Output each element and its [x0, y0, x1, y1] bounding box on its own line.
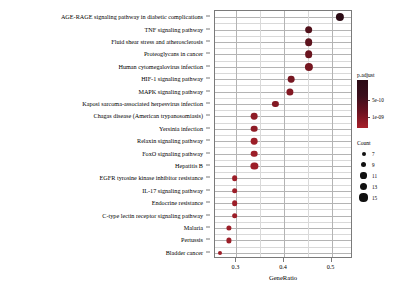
padjust-legend-tick-label: 5e-10	[372, 97, 384, 103]
y-axis-tick	[206, 127, 210, 128]
data-point-dot	[232, 200, 238, 206]
x-axis-tick	[283, 258, 284, 262]
gridline-vertical	[236, 11, 237, 257]
data-point-dot	[288, 76, 295, 83]
data-point-dot	[336, 13, 344, 21]
y-axis-tick	[206, 202, 210, 203]
data-point-dot	[272, 101, 278, 107]
y-axis-label: C-type lectin receptor signaling pathway	[102, 211, 203, 218]
padjust-gradient-bar: 5e-101e-09	[357, 80, 368, 128]
y-axis-label: Pertussis	[181, 236, 203, 243]
y-axis-label: MAPK signaling pathway	[138, 87, 203, 94]
legend-count-dot	[360, 183, 367, 190]
y-axis-label: Yersinia infection	[159, 124, 203, 131]
y-axis-tick	[206, 239, 210, 240]
x-axis-title: GeneRatio	[214, 274, 352, 281]
legend-count-label: 7	[372, 151, 375, 157]
legend-count-item: 13	[357, 181, 377, 192]
y-axis-tick	[206, 65, 210, 66]
y-axis-label: FoxO signaling pathway	[142, 149, 203, 156]
legend-count-label: 13	[372, 184, 377, 190]
data-point-dot	[305, 26, 313, 34]
legend-count-dot-wrap	[357, 193, 370, 201]
y-axis-tick	[206, 28, 210, 29]
legend-count-label: 15	[372, 195, 377, 201]
x-axis-tick-label: 0.5	[327, 263, 335, 270]
legend-count-item: 9	[357, 159, 377, 170]
y-axis-label: Malaria	[184, 224, 203, 231]
legend-count-label: 9	[372, 162, 375, 168]
y-axis-tick	[206, 115, 210, 116]
gridline-vertical	[332, 11, 333, 257]
data-point-dot	[286, 88, 293, 95]
legend-count-dot	[362, 152, 366, 156]
y-axis-label: Fluid shear stress and atherosclerosis	[111, 38, 203, 45]
data-point-dot	[251, 113, 258, 120]
plot-panel	[214, 10, 352, 258]
y-axis-label: Chagas disease (American trypanosomiasis…	[94, 112, 203, 119]
y-axis-label: HIF-1 signaling pathway	[141, 75, 203, 82]
legend-count-item: 15	[357, 192, 377, 203]
data-point-dot	[251, 125, 258, 132]
legend-count-dot-wrap	[357, 162, 370, 167]
y-axis-label: Kaposi sarcoma-associated herpesvirus in…	[82, 100, 203, 107]
legend-count-dot-wrap	[357, 183, 370, 190]
x-axis-tick	[331, 258, 332, 262]
legend-count-dot	[360, 172, 366, 178]
y-axis-tick	[206, 90, 210, 91]
y-axis-tick	[206, 189, 210, 190]
y-axis-tick	[206, 214, 210, 215]
gridline-vertical-minor	[308, 11, 309, 257]
y-axis-label: Hepatitis B	[175, 162, 203, 169]
data-point-dot	[232, 213, 238, 219]
data-point-dot	[227, 238, 232, 243]
y-axis-label: Human cytomegalovirus infection	[118, 62, 203, 69]
gridline-vertical-minor	[260, 11, 261, 257]
dotplot-chart: AGE-RAGE signaling pathway in diabetic c…	[0, 0, 400, 295]
padjust-legend-tick	[368, 117, 370, 118]
legend-count-dot	[361, 162, 366, 167]
legend-count-label: 11	[372, 173, 377, 179]
y-axis-tick	[206, 78, 210, 79]
legend-count-dot-wrap	[357, 172, 370, 178]
x-axis-tick-label: 0.4	[279, 263, 287, 270]
y-axis-label: EGFR tyrosine kinase inhibitor resistanc…	[100, 174, 203, 181]
y-axis-label: Proteoglycans in cancer	[144, 50, 203, 57]
gridline-vertical	[284, 11, 285, 257]
legend-count-dot	[359, 193, 367, 201]
y-axis-labels: AGE-RAGE signaling pathway in diabetic c…	[0, 10, 210, 258]
data-point-dot	[305, 38, 313, 46]
y-axis-tick	[206, 177, 210, 178]
y-axis-tick	[206, 152, 210, 153]
legend-count-title: Count	[357, 140, 377, 146]
data-point-dot	[227, 225, 232, 230]
data-point-dot	[232, 176, 238, 182]
y-axis-label: AGE-RAGE signaling pathway in diabetic c…	[61, 13, 203, 20]
data-point-dot	[251, 138, 258, 145]
y-axis-tick	[206, 165, 210, 166]
y-axis-tick	[206, 103, 210, 104]
y-axis-label: Bladder cancer	[166, 248, 203, 255]
data-point-dot	[218, 251, 222, 255]
y-axis-label: TNF signaling pathway	[145, 25, 203, 32]
y-axis-label: IL-17 signaling pathway	[142, 186, 203, 193]
data-point-dot	[251, 150, 258, 157]
data-point-dot	[251, 162, 258, 169]
data-point-dot	[232, 188, 238, 194]
y-axis-tick	[206, 251, 210, 252]
legend-count-dot-wrap	[357, 152, 370, 156]
legend-count-item: 11	[357, 170, 377, 181]
legend-count-rows: 79111315	[357, 148, 377, 203]
legend-count: Count 79111315	[357, 140, 377, 203]
legend-count-item: 7	[357, 148, 377, 159]
data-point-dot	[305, 51, 313, 59]
y-axis-label: Relaxin signaling pathway	[137, 137, 203, 144]
y-axis-label: Endocrine resistance	[152, 199, 203, 206]
y-axis-tick	[206, 53, 210, 54]
padjust-legend-tick-label: 1e-09	[372, 114, 384, 120]
legend-padjust-title: p.adjust	[357, 72, 375, 78]
data-point-dot	[305, 63, 313, 71]
y-axis-tick	[206, 227, 210, 228]
y-axis-tick	[206, 140, 210, 141]
padjust-legend-tick	[368, 100, 370, 101]
